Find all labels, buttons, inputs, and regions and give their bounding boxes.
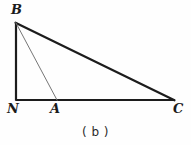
figure-caption: ( b ) [0,125,191,139]
vertex-label-n: N [7,102,19,115]
segment-ba [16,23,57,100]
vertex-label-c: C [173,102,183,115]
triangle-diagram [0,0,191,145]
geometry-figure: B N A C ( b ) [0,0,191,145]
vertex-label-b: B [11,3,22,16]
segment-bc [16,23,175,100]
vertex-label-a: A [50,102,60,115]
